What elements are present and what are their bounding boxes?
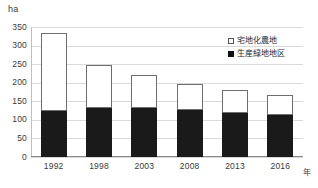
y-axis-tick-label: 300 [3, 41, 27, 50]
bar-group [131, 27, 157, 157]
bar-group [41, 27, 67, 157]
x-axis-tick-label: 2003 [124, 161, 164, 171]
bar-segment-takuchika-nouchi [131, 75, 157, 108]
x-axis-tick-label: 2016 [260, 161, 300, 171]
x-axis-tick-label: 1992 [34, 161, 74, 171]
x-axis-title: 年 [303, 168, 311, 177]
bar-segment-takuchika-nouchi [177, 84, 203, 110]
bar-group [177, 27, 203, 157]
y-axis-tick-label: 200 [3, 78, 27, 87]
gridline [31, 157, 303, 158]
x-axis-tick-label: 2008 [170, 161, 210, 171]
filled-square-icon [228, 51, 234, 57]
bar-segment-seisan-ryokuchi-chiku [177, 110, 203, 157]
y-axis-tick-label: 0 [3, 153, 27, 162]
bar-group [86, 27, 112, 157]
bar-segment-seisan-ryokuchi-chiku [131, 108, 157, 157]
y-axis-tick-label: 100 [3, 115, 27, 124]
bar-segment-seisan-ryokuchi-chiku [267, 115, 293, 157]
legend-label: 宅地化農地 [237, 36, 277, 45]
legend-label: 生産緑地地区 [237, 49, 285, 58]
open-square-icon [228, 38, 234, 44]
y-axis-tick-label: 150 [3, 97, 27, 106]
bar-segment-seisan-ryokuchi-chiku [41, 111, 67, 157]
x-axis-tick-label: 1998 [79, 161, 119, 171]
x-axis-tick-label: 2013 [215, 161, 255, 171]
chart-legend: 宅地化農地 生産緑地地区 [228, 36, 285, 58]
bar-segment-takuchika-nouchi [41, 33, 67, 111]
bar-segment-seisan-ryokuchi-chiku [86, 108, 112, 157]
y-axis-tick-label: 350 [3, 23, 27, 32]
y-axis-tick-label: 250 [3, 60, 27, 69]
bar-segment-seisan-ryokuchi-chiku [222, 113, 248, 157]
y-axis-unit-label: ha [8, 4, 18, 15]
bar-segment-takuchika-nouchi [267, 95, 293, 115]
bar-segment-takuchika-nouchi [222, 90, 248, 113]
y-axis-tick-label: 50 [3, 134, 27, 143]
legend-item-seisan-ryokuchi-chiku: 生産緑地地区 [228, 49, 285, 58]
stacked-bar-chart: ha 宅地化農地 生産緑地地区 年 0501001502002503003501… [0, 0, 318, 188]
bar-segment-takuchika-nouchi [86, 65, 112, 109]
legend-item-takuchika-nouchi: 宅地化農地 [228, 36, 285, 45]
